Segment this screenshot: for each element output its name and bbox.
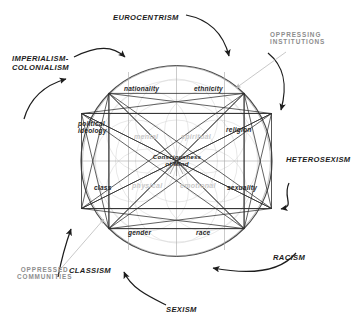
inner-label-race: race — [196, 229, 210, 236]
outer-label-heterosexism: HETEROSEXISM — [286, 156, 351, 165]
inner-label-ethnicity: ethnicity — [194, 85, 223, 92]
outer-label-sexism: SEXISM — [166, 306, 197, 315]
arrow-heterosexism — [281, 183, 289, 209]
inner-label-religion: religion — [226, 126, 251, 133]
inner-label-gender: gender — [128, 229, 151, 236]
faint-label-physical: physical — [132, 182, 162, 190]
outer-label-imperialism-colonialism: IMPERIALISM- COLONIALISM — [12, 55, 69, 72]
outer-label-eurocentrism: EUROCENTRISM — [113, 14, 179, 23]
arrow-eurocentrism — [186, 15, 229, 56]
pointer-oppressed-communities — [58, 219, 104, 272]
pointer-oppressing-institutions — [236, 52, 286, 88]
faint-label-spiritual: spiritual — [181, 133, 211, 141]
arrow-sexism — [124, 272, 166, 305]
arrow-imperialism-2 — [24, 79, 66, 119]
inner-label-nationality: nationality — [124, 85, 159, 92]
outer-label-classism: CLASSISM — [69, 267, 111, 276]
inner-label-political-ideology: political ideology — [78, 120, 107, 135]
faint-label-emotional: emotional — [180, 182, 216, 190]
arrow-oppressing — [268, 53, 284, 110]
center-label-consciousness-of-mind: Consciousness of Mind — [148, 153, 206, 168]
inner-label-class: class — [94, 184, 112, 191]
diagram-canvas: EUROCENTRISM IMPERIALISM- COLONIALISM HE… — [0, 0, 353, 323]
faint-label-mental: mental — [134, 133, 158, 141]
outer-label-oppressed-communities: OPPRESSED COMMUNITIES — [17, 266, 72, 280]
arrow-imperialism — [74, 48, 125, 57]
outer-label-racism: RACISM — [273, 254, 305, 263]
inner-label-sexuality: sexuality — [227, 184, 257, 191]
outer-label-oppressing-institutions: OPPRESSING INSTITUTIONS — [270, 31, 325, 45]
